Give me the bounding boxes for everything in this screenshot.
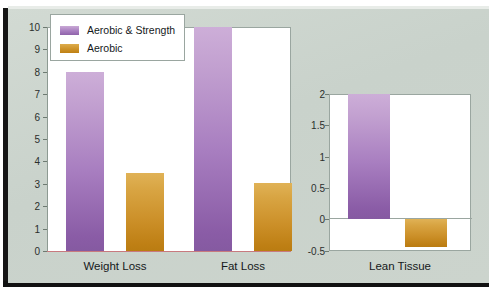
legend-item-aerobic-strength: Aerobic & Strength [60,23,175,37]
bar-weight-loss-aerobic-strength [66,72,104,251]
y-tick-mark-right [325,251,329,252]
y-axis-left [47,27,48,252]
y-tick-mark-left [43,72,47,73]
y-tick-label-left: 4 [16,156,40,167]
x-category-label-lean-tissue: Lean Tissue [340,260,460,272]
y-tick-mark-left [43,206,47,207]
y-tick-label-left: 1 [16,224,40,235]
y-tick-label-left: 10 [16,22,40,33]
y-tick-label-right: 1.5 [299,120,325,131]
y-tick-mark-left [43,117,47,118]
y-tick-label-right: 0 [299,214,325,225]
bar-weight-loss-aerobic [126,173,164,251]
scanned-page: 10 9 8 7 6 5 4 3 2 1 0 Weight Loss Fat L… [0,0,494,294]
bar-lean-tissue-aerobic [405,219,447,247]
y-tick-label-left: 3 [16,179,40,190]
y-tick-label-left: 2 [16,201,40,212]
bar-fat-loss-aerobic [254,183,292,251]
y-tick-mark-left [43,229,47,230]
y-tick-mark-right [325,219,329,220]
bar-fat-loss-aerobic-strength [194,27,232,251]
chart-right-panel: 2 1.5 1 0.5 0 -0.5 Lean Tissue [293,6,489,283]
y-tick-label-right: 2 [299,89,325,100]
y-tick-mark-right [325,157,329,158]
y-tick-mark-left [43,184,47,185]
legend: Aerobic & Strength Aerobic [50,14,185,61]
x-category-label-fat-loss: Fat Loss [183,260,303,272]
legend-label: Aerobic [87,42,123,54]
y-tick-mark-left [43,139,47,140]
y-tick-label-right: 1 [299,152,325,163]
y-tick-mark-left [43,94,47,95]
y-tick-label-right: 0.5 [299,183,325,194]
y-tick-label-left: 6 [16,112,40,123]
legend-swatch-icon [60,26,79,35]
bar-lean-tissue-aerobic-strength [348,94,390,219]
y-tick-mark-left [43,49,47,50]
y-tick-mark-right [325,125,329,126]
y-tick-label-left: 9 [16,44,40,55]
legend-label: Aerobic & Strength [87,24,175,36]
y-tick-mark-left [43,251,47,252]
y-tick-mark-left [43,27,47,28]
y-tick-label-left: 5 [16,134,40,145]
y-tick-mark-right [325,94,329,95]
y-tick-mark-right [325,188,329,189]
y-tick-label-left: 8 [16,67,40,78]
x-axis-left [47,251,291,252]
y-tick-label-right: -0.5 [295,246,325,257]
x-category-label-weight-loss: Weight Loss [55,260,175,272]
y-tick-mark-left [43,161,47,162]
y-tick-label-left: 7 [16,89,40,100]
legend-item-aerobic: Aerobic [60,41,123,55]
y-tick-label-left: 0 [16,246,40,257]
legend-swatch-icon [60,44,79,53]
